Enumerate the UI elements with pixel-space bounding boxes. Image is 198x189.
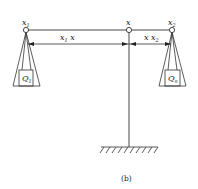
mid-pivot-icon	[126, 27, 131, 32]
arrow-mid-left-icon	[122, 42, 128, 46]
label-qn: Qn	[168, 74, 178, 84]
beam-diagram: x1 x x2 x1 x x x2 Q1 Qn (b)	[0, 0, 198, 189]
arrow-right-end-icon	[165, 42, 171, 46]
left-pivot-icon	[23, 27, 28, 32]
diagram-canvas: x1 x x2 x1 x x x2 Q1 Qn (b)	[0, 0, 198, 189]
caption: (b)	[121, 174, 132, 183]
label-x1: x1	[22, 18, 30, 28]
ground-hatch	[100, 147, 158, 153]
label-q1: Q1	[22, 74, 32, 84]
right-pivot-icon	[169, 27, 174, 32]
label-x2: x2	[168, 18, 176, 28]
label-x: x	[126, 18, 131, 27]
arrow-mid-right-icon	[130, 42, 136, 46]
dim-label-xx2: x x2	[144, 33, 159, 43]
dim-label-x1x: x1 x	[60, 33, 75, 43]
